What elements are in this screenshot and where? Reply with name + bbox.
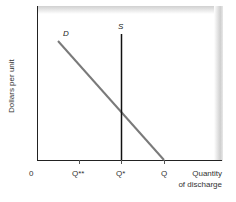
- x-axis-label-line1: Quantity: [170, 168, 222, 179]
- tick-label-q: Q: [161, 169, 167, 178]
- demand-label: D: [63, 29, 69, 38]
- x-axis-label-line2: of discharge: [170, 179, 222, 190]
- tick-label-q1: Q*: [116, 169, 125, 178]
- tick-label-q2: Q**: [72, 169, 84, 178]
- chart: D S Dollars per unit 0 Q** Q* Q Quantity…: [0, 0, 236, 202]
- demand-line: [58, 41, 164, 160]
- y-axis-label: Dollars per unit: [7, 59, 16, 113]
- x-axis-label: Quantity of discharge: [170, 168, 222, 190]
- supply-label: S: [118, 22, 123, 31]
- origin-label: 0: [29, 169, 33, 178]
